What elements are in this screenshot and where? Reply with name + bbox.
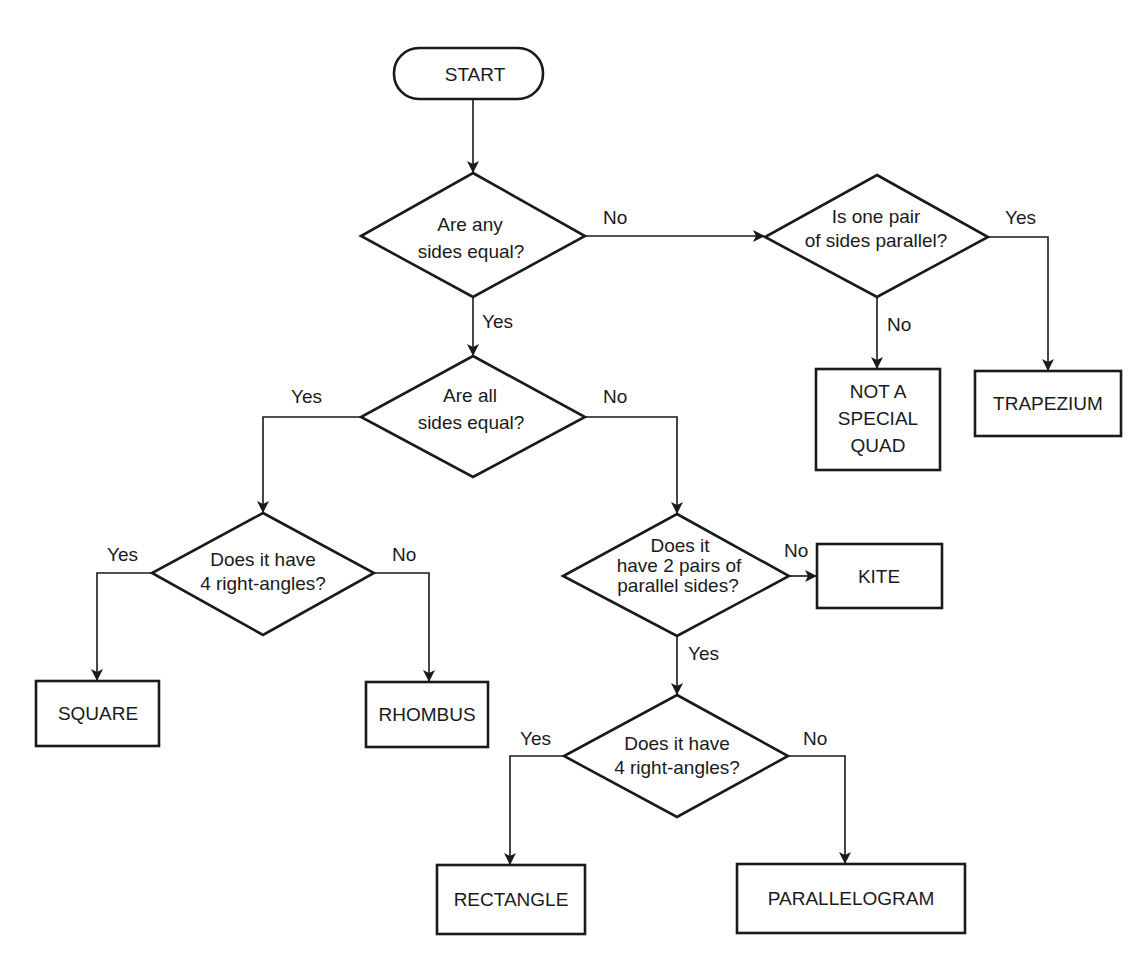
label-any-equal-yes: Yes	[482, 311, 513, 332]
label-right2-no: No	[803, 728, 827, 749]
result-text-line: QUAD	[851, 435, 906, 456]
result-parallelogram: PARALLELOGRAM	[737, 864, 965, 933]
decision-text-line: Does it have	[210, 549, 316, 570]
result-text-line: SPECIAL	[838, 408, 918, 429]
label-right1-yes: Yes	[107, 544, 138, 565]
edge-right2-no	[788, 756, 845, 863]
edge-one-pair-yes	[988, 237, 1048, 370]
decision-text-line: have 2 pairs of	[617, 555, 742, 576]
decision-text-line: parallel sides?	[617, 575, 738, 596]
label-one-pair-no: No	[887, 314, 911, 335]
result-label: KITE	[858, 566, 900, 587]
result-square: SQUARE	[36, 681, 159, 746]
label-right1-no: No	[392, 544, 416, 565]
result-text-line: NOT A	[850, 381, 907, 402]
decision-text-line: Are any	[437, 214, 503, 235]
decision-one-pair-parallel: Is one pair of sides parallel?	[765, 175, 988, 297]
label-two-pairs-no: No	[784, 540, 808, 561]
decision-text-line: sides equal?	[418, 412, 525, 433]
start-terminal: START	[394, 48, 543, 99]
label-any-equal-no: No	[603, 207, 627, 228]
result-label: RECTANGLE	[454, 889, 569, 910]
decision-text-line: Does it have	[624, 733, 730, 754]
quadrilateral-flowchart: No Yes Yes No Yes No Yes No No Yes Yes N…	[0, 0, 1146, 964]
start-label: START	[445, 64, 506, 85]
decision-text-line: of sides parallel?	[805, 230, 948, 251]
decision-right-angles-right: Does it have 4 right-angles?	[564, 695, 788, 817]
label-one-pair-yes: Yes	[1005, 207, 1036, 228]
decision-right-angles-left: Does it have 4 right-angles?	[152, 513, 374, 635]
decision-any-sides-equal: Are any sides equal?	[361, 173, 585, 297]
result-label: TRAPEZIUM	[993, 393, 1103, 414]
edge-all-equal-no	[585, 417, 677, 513]
edge-right1-yes	[97, 573, 152, 680]
label-two-pairs-yes: Yes	[688, 643, 719, 664]
edge-labels: No Yes Yes No Yes No Yes No No Yes Yes N…	[107, 207, 1036, 749]
result-label: SQUARE	[58, 703, 138, 724]
decision-text-line: Is one pair	[832, 206, 921, 227]
label-all-equal-no: No	[603, 386, 627, 407]
edge-right1-no	[374, 573, 429, 681]
result-label: PARALLELOGRAM	[768, 888, 934, 909]
decision-all-sides-equal: Are all sides equal?	[361, 356, 585, 477]
decision-text-line: 4 right-angles?	[200, 573, 326, 594]
result-not-special-quad: NOT A SPECIAL QUAD	[816, 369, 940, 470]
edge-right2-yes	[510, 756, 564, 864]
decision-two-pairs-parallel: Does it have 2 pairs of parallel sides?	[563, 514, 789, 636]
result-label: RHOMBUS	[378, 704, 475, 725]
result-trapezium: TRAPEZIUM	[975, 371, 1121, 436]
label-right2-yes: Yes	[520, 728, 551, 749]
decision-text-line: Does it	[650, 535, 710, 556]
result-rhombus: RHOMBUS	[366, 682, 488, 747]
decision-text-line: Are all	[443, 385, 497, 406]
edge-all-equal-yes	[263, 417, 361, 512]
decision-text-line: 4 right-angles?	[614, 757, 740, 778]
decision-text-line: sides equal?	[418, 241, 525, 262]
result-kite: KITE	[817, 544, 942, 608]
label-all-equal-yes: Yes	[291, 386, 322, 407]
result-rectangle: RECTANGLE	[437, 865, 585, 934]
